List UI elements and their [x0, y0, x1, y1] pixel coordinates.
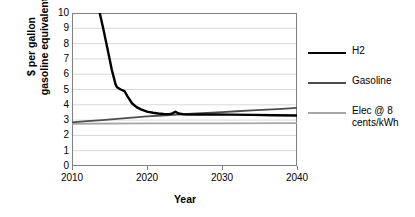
legend-item[interactable]: H2: [308, 40, 408, 70]
legend-label-line1: Elec @ 8: [352, 105, 415, 117]
y-tick-label: 3: [51, 115, 69, 125]
x-axis-title: Year: [72, 193, 298, 205]
legend: H2GasolineElec @ 8cents/kWh: [308, 40, 408, 130]
chart-container: $ per gallon gasoline equivalent 1098765…: [0, 0, 415, 217]
y-tick-label: 2: [51, 130, 69, 140]
legend-label: H2: [352, 45, 415, 57]
x-tick-label: 2030: [202, 172, 242, 183]
x-tick-mark: [222, 166, 223, 170]
y-tick-label: 10: [51, 8, 69, 18]
x-tick-mark: [147, 166, 148, 170]
y-tick-label: 5: [51, 85, 69, 95]
series-line-elec-8-cents-kwh: [72, 123, 297, 124]
legend-swatch-line: [308, 52, 346, 54]
plot-svg: [72, 13, 297, 166]
legend-swatch-line: [308, 82, 346, 84]
legend-label-line2: cents/kWh: [352, 117, 415, 129]
legend-item[interactable]: Elec @ 8cents/kWh: [308, 100, 408, 130]
x-tick-mark: [72, 166, 73, 170]
y-tick-label: 7: [51, 54, 69, 64]
x-tick-label: 2040: [277, 172, 317, 183]
legend-label: Elec @ 8cents/kWh: [352, 105, 415, 128]
x-tick-label: 2010: [52, 172, 92, 183]
y-tick-label: 8: [51, 39, 69, 49]
legend-label: Gasoline: [352, 75, 415, 87]
y-tick-label: 1: [51, 146, 69, 156]
y-tick-label: 4: [51, 100, 69, 110]
y-axis-title: $ per gallon gasoline equivalent: [25, 0, 50, 122]
y-tick-label: 6: [51, 69, 69, 79]
y-tick-label: 0: [51, 161, 69, 171]
legend-item[interactable]: Gasoline: [308, 70, 408, 100]
legend-swatch-line: [308, 112, 346, 114]
y-axis-tick-labels: 109876543210: [48, 0, 69, 217]
plot-area: [72, 13, 297, 166]
x-tick-mark: [297, 166, 298, 170]
y-axis-title-line1: $ per gallon: [25, 0, 38, 122]
x-tick-label: 2020: [127, 172, 167, 183]
y-tick-label: 9: [51, 23, 69, 33]
